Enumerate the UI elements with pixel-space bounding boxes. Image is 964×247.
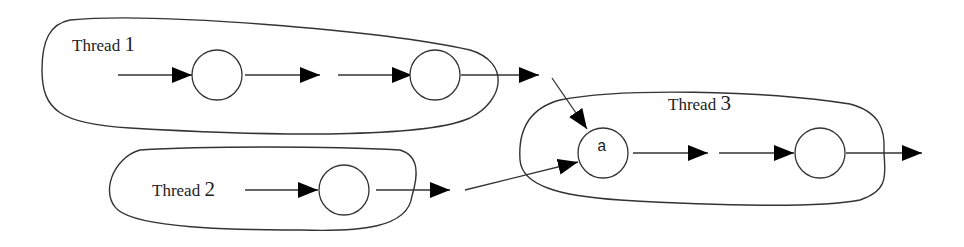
thread-3-node-2: [795, 128, 845, 178]
thread-3-label: Thread 3: [668, 91, 731, 115]
thread-diagram: Thread 1 Thread 2 Thread 3 a: [0, 0, 964, 247]
thread-2-node-1: [319, 165, 369, 215]
thread-3-group: Thread 3 a: [520, 91, 922, 205]
thread-1-node-1: [192, 50, 242, 100]
thread-2-group: Thread 2: [109, 147, 450, 230]
thread-1-group: Thread 1: [42, 18, 539, 134]
node-a-label: a: [597, 138, 607, 156]
edge-thread-1-to-a: [552, 78, 587, 129]
thread-1-label: Thread 1: [72, 32, 135, 56]
thread-2-label: Thread 2: [152, 177, 215, 201]
thread-1-node-2: [410, 50, 460, 100]
